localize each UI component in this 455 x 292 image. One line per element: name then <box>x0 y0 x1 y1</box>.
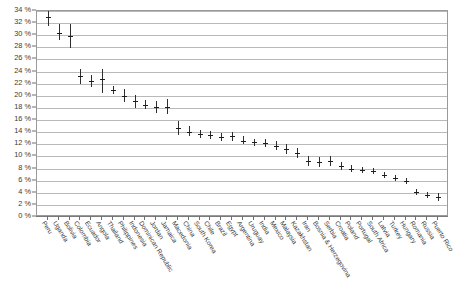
data-point <box>404 181 409 182</box>
gridline <box>37 120 447 121</box>
data-point <box>111 90 116 91</box>
gridline <box>37 47 447 48</box>
data-point <box>349 169 354 170</box>
data-point <box>393 178 398 179</box>
error-bar <box>59 24 60 40</box>
y-axis-tick-label: 30 % <box>14 31 31 38</box>
data-point <box>57 33 62 34</box>
data-point <box>436 197 441 198</box>
y-axis-tick-label: 8 % <box>18 164 31 171</box>
data-point <box>295 153 300 154</box>
data-point <box>252 142 257 143</box>
data-point <box>317 162 322 163</box>
gridline <box>37 84 447 85</box>
y-axis-tick-label: 24 % <box>14 67 31 74</box>
data-point <box>339 166 344 167</box>
data-point <box>46 17 51 18</box>
data-point <box>274 146 279 147</box>
gridline <box>37 169 447 170</box>
gridline <box>37 23 447 24</box>
gridline <box>37 132 447 133</box>
gridline <box>37 11 447 12</box>
data-point <box>328 161 333 162</box>
data-point <box>187 132 192 133</box>
data-point <box>78 76 83 77</box>
data-point <box>241 141 246 142</box>
gridline <box>37 72 447 73</box>
gridline <box>37 59 447 60</box>
y-axis-tick-label: 0 % <box>18 212 31 219</box>
data-point <box>230 136 235 137</box>
y-axis-tick-label: 26 % <box>14 55 31 62</box>
y-axis-tick-label: 34 % <box>14 6 31 13</box>
y-axis-tick-label: 32 % <box>14 18 31 25</box>
y-axis-tick-label: 12 % <box>14 140 31 147</box>
y-axis-tick-label: 10 % <box>14 152 31 159</box>
data-point <box>263 143 268 144</box>
data-point <box>89 81 94 82</box>
data-point <box>133 101 138 102</box>
gridline <box>37 96 447 97</box>
data-point <box>371 171 376 172</box>
gridline <box>37 35 447 36</box>
gridline <box>37 144 447 145</box>
data-point <box>122 96 127 97</box>
data-point <box>360 170 365 171</box>
y-axis-tick-label: 2 % <box>18 200 31 207</box>
chart-container: 0 %2 %4 %6 %8 %10 %12 %14 %16 %18 %20 %2… <box>0 0 455 292</box>
data-point <box>165 107 170 108</box>
data-point <box>68 36 73 37</box>
data-point <box>284 149 289 150</box>
data-point <box>143 105 148 106</box>
data-point <box>306 161 311 162</box>
error-bar <box>48 11 49 26</box>
y-axis-tick-label: 20 % <box>14 91 31 98</box>
data-point <box>176 128 181 129</box>
error-bar <box>102 69 103 93</box>
data-point <box>198 134 203 135</box>
data-point <box>425 195 430 196</box>
gridline <box>37 193 447 194</box>
y-axis-tick-label: 16 % <box>14 115 31 122</box>
data-point <box>414 192 419 193</box>
y-axis-tick-label: 4 % <box>18 188 31 195</box>
data-point <box>100 79 105 80</box>
x-axis: PeruUgandaBoliviaColombiaEcuadorAngolaTh… <box>0 220 455 292</box>
gridline <box>37 181 447 182</box>
y-axis-tick-label: 28 % <box>14 43 31 50</box>
y-axis-tick-label: 6 % <box>18 176 31 183</box>
y-axis-tick-label: 18 % <box>14 103 31 110</box>
data-point <box>382 175 387 176</box>
plot-area <box>36 10 448 216</box>
y-axis: 0 %2 %4 %6 %8 %10 %12 %14 %16 %18 %20 %2… <box>0 10 34 216</box>
y-axis-tick-label: 22 % <box>14 79 31 86</box>
gridline <box>37 156 447 157</box>
data-point <box>208 135 213 136</box>
gridline <box>37 205 447 206</box>
data-point <box>219 137 224 138</box>
y-axis-tick-label: 14 % <box>14 127 31 134</box>
data-point <box>154 107 159 108</box>
gridline <box>37 108 447 109</box>
